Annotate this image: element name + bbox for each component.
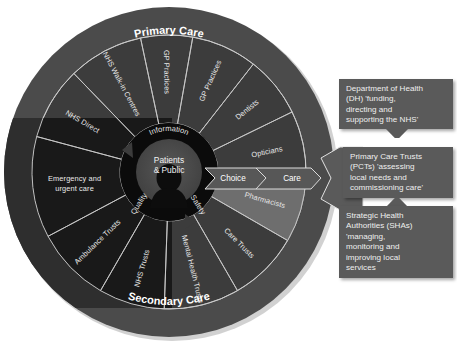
callout-dh-line-4: supporting the NHS' [346,115,447,125]
callout-sha-line-4: monitoring and [346,242,447,252]
callout-sha-line-3: 'managing, [346,232,447,242]
wheel-segment-label: GP Practices [162,50,172,95]
callout-pct-line-3: local needs and [350,173,447,183]
diagram-canvas: GP PracticesDentistsOpticiansPharmacists… [0,0,457,346]
flow-step-choice: Choice [220,174,246,183]
callout-department-of-health[interactable]: Department of Health (DH) 'funding, dire… [339,79,453,129]
callout-pct-line-2: (PCTs) 'assessing [350,162,447,172]
flow-step-care: Care [283,174,301,183]
callout-sha-line-6: services [346,263,447,273]
callout-sha-line-2: Authorities (SHAs) [346,221,447,231]
wheel-segment-label: Emergency andurgent care [48,174,101,193]
callout-primary-care-trusts[interactable]: Primary Care Trusts (PCTs) 'assessing lo… [343,147,453,198]
callout-pct-line-1: Primary Care Trusts [350,152,447,162]
core-center-line1: Patients [154,155,184,165]
callout-dh-line-1: Department of Health [346,84,447,94]
callout-pct-line-4: commissioning care' [350,183,447,193]
callout-strategic-health-authorities[interactable]: Strategic Health Authorities (SHAs) 'man… [339,206,453,278]
callout-dh-line-2: (DH) 'funding, [346,94,447,104]
callout-sha-line-5: improving local [346,253,447,263]
callout-dh-line-3: directing and [346,105,447,115]
choice-care-flow-bar[interactable]: Choice Care [205,168,321,189]
callout-sha-line-1: Strategic Health [346,211,447,221]
core-center-line2: & Public [154,165,185,175]
